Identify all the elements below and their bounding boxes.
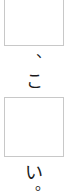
answer-box-1[interactable] [4,0,64,46]
kana-ko: こ [26,73,43,90]
answer-box-2[interactable] [4,97,64,157]
comma-punctuation: 、 [36,45,51,60]
period-punctuation: 。 [35,177,50,192]
